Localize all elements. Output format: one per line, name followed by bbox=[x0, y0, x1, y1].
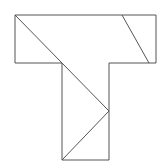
internal-lines bbox=[15, 15, 149, 160]
t-shape-tangram-diagram bbox=[0, 0, 161, 163]
lower-diagonal bbox=[62, 111, 109, 160]
top-right-diagonal bbox=[122, 15, 149, 63]
